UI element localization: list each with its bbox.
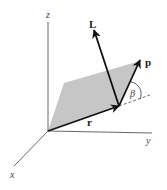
angular-momentum-diagram: z y x L p r β xyxy=(0,0,167,190)
r-p-plane xyxy=(48,61,140,131)
z-axis-label: z xyxy=(45,9,50,20)
x-axis xyxy=(14,131,48,166)
x-axis-label: x xyxy=(9,169,15,180)
r-label: r xyxy=(87,116,92,128)
y-axis xyxy=(48,131,152,133)
y-axis-label: y xyxy=(145,135,151,146)
p-label: p xyxy=(145,56,151,68)
L-label: L xyxy=(89,18,96,30)
beta-label: β xyxy=(129,88,135,99)
